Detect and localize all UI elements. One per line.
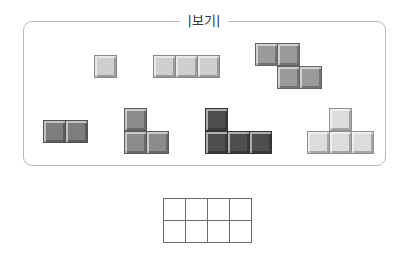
i-tromino-tile [175,55,198,78]
s-tetromino-tile [255,43,278,66]
s-tetromino-tile [277,43,300,66]
l-tromino-tile [146,131,169,154]
t-tetromino-tile [307,131,330,154]
grid-cell [186,199,208,221]
grid-cell [230,221,252,243]
grid-cell [164,221,186,243]
grid-cell [208,221,230,243]
l-tetromino-tile [227,131,250,154]
l-tetromino-tile [205,131,228,154]
domino-tile [43,120,66,143]
grid-cell [186,221,208,243]
l-tetromino-tile [205,108,228,131]
grid-cell [164,199,186,221]
t-tetromino-tile [351,131,374,154]
i-tromino-tile [197,55,220,78]
l-tetromino-tile [249,131,272,154]
grid-cell [208,199,230,221]
i-tromino-tile [153,55,176,78]
t-tetromino-tile [329,131,352,154]
domino-tile [65,120,88,143]
l-tromino-tile [124,131,147,154]
s-tetromino-tile [277,66,300,89]
target-grid [163,198,252,243]
grid-cell [230,199,252,221]
monomino-tile [94,55,117,78]
l-tromino-tile [124,108,147,131]
t-tetromino-tile [329,108,352,131]
s-tetromino-tile [299,66,322,89]
example-label: |보기| [180,12,228,30]
